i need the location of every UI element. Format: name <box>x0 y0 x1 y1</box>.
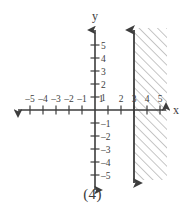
y-tick-label--1: –1 <box>100 119 111 129</box>
y-tick-label--5: –5 <box>100 171 111 181</box>
y-tick-label-1: 1 <box>101 93 106 103</box>
x-tick-label--4: –4 <box>37 94 48 104</box>
y-tick-label--4: –4 <box>100 158 111 168</box>
x-tick-label-4: 4 <box>145 94 150 104</box>
x-tick-label--2: –2 <box>63 94 74 104</box>
y-tick-label-2: 2 <box>101 80 106 90</box>
x-tick-label--5: –5 <box>24 94 35 104</box>
shaded-region <box>134 28 167 180</box>
figure-caption: (4) <box>0 186 185 203</box>
y-tick-label--2: –2 <box>100 132 111 142</box>
y-axis-label: y <box>92 9 98 23</box>
graph-canvas: –5 –4 –3 –2 –1 1 2 3 4 5 x <box>0 0 185 212</box>
x-tick-label--1: –1 <box>76 94 87 104</box>
y-tick-label-3: 3 <box>101 67 106 77</box>
x-axis-label: x <box>173 103 179 117</box>
x-tick-label--3: –3 <box>50 94 61 104</box>
coordinate-plane-figure: –5 –4 –3 –2 –1 1 2 3 4 5 x <box>0 0 185 212</box>
y-tick-label--3: –3 <box>100 145 111 155</box>
y-tick-label-4: 4 <box>101 54 106 64</box>
x-tick-label-2: 2 <box>119 94 124 104</box>
x-tick-label-5: 5 <box>158 94 163 104</box>
y-axis: 5 4 3 2 1 –1 –2 –3 –4 –5 y <box>91 9 111 190</box>
y-tick-label-5: 5 <box>101 41 106 51</box>
